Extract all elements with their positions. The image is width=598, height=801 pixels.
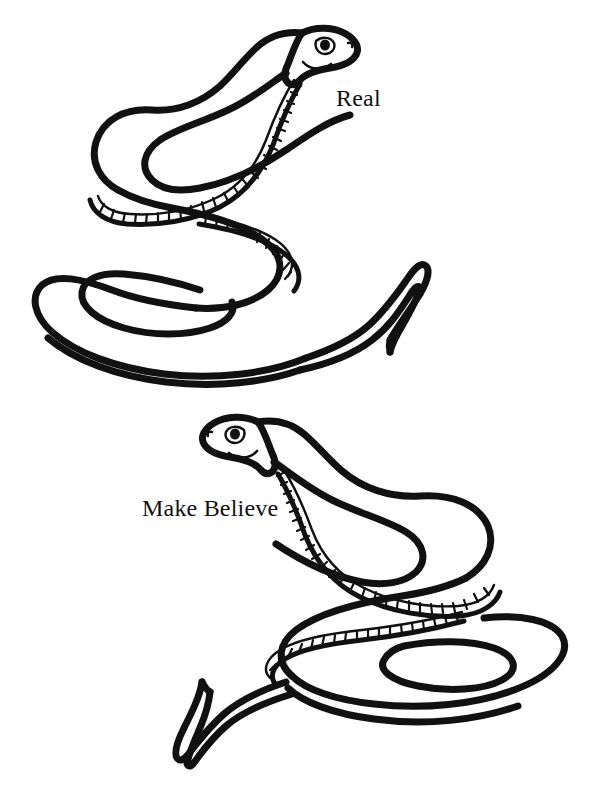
snakes-illustration-artboard: [0, 0, 598, 801]
real-snake-tail-tip: [389, 340, 390, 352]
label-make-believe: Make Believe: [142, 495, 278, 522]
coloring-page: Real Make Believe: [0, 0, 598, 801]
label-real: Real: [336, 85, 381, 112]
real-snake-eye-pupil: [320, 40, 330, 51]
make-believe-snake-eye-pupil: [230, 429, 240, 440]
